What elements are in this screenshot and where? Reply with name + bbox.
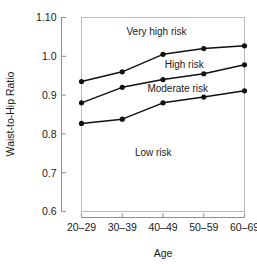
chart-container: 0.60.70.80.91.01.10 20–2930–3940–4950–59…: [0, 0, 257, 264]
y-axis-spine: [62, 18, 67, 212]
region-label-1: High risk: [165, 59, 205, 70]
y-axis-title: Waist-to-Hip Ratio: [4, 71, 16, 156]
data-point-1-2: [160, 77, 165, 82]
data-point-1-3: [201, 71, 206, 76]
region-label-0: Very high risk: [126, 26, 187, 37]
y-tick-label-3: 0.9: [42, 89, 57, 101]
series-line-2: [82, 91, 245, 124]
y-tick-label-4: 1.0: [42, 50, 57, 62]
data-point-2-3: [201, 94, 206, 99]
x-tick-label-1: 30–39: [108, 221, 137, 233]
data-point-2-1: [120, 117, 125, 122]
data-point-1-0: [79, 100, 84, 105]
x-axis-tick-labels: 20–2930–3940–4950–5960–69: [67, 221, 257, 233]
y-tick-label-5: 1.10: [36, 11, 57, 23]
data-point-1-1: [120, 85, 125, 90]
data-point-0-3: [201, 46, 206, 51]
data-point-2-2: [160, 100, 165, 105]
data-point-0-2: [160, 52, 165, 57]
y-tick-label-2: 0.8: [42, 128, 57, 140]
data-point-2-4: [242, 88, 247, 93]
y-axis-tick-labels: 0.60.70.80.91.01.10: [36, 11, 57, 217]
y-tick-label-0: 0.6: [42, 205, 57, 217]
x-axis-title: Age: [154, 247, 173, 259]
x-tick-label-2: 40–49: [148, 221, 177, 233]
series-line-0: [82, 46, 245, 82]
data-point-1-4: [242, 62, 247, 67]
x-tick-label-0: 20–29: [67, 221, 96, 233]
region-annotations-group: Very high riskHigh riskModerate riskLow …: [126, 26, 208, 158]
data-point-2-0: [79, 121, 84, 126]
data-point-0-4: [242, 43, 247, 48]
x-tick-label-3: 50–59: [189, 221, 218, 233]
y-tick-label-1: 0.7: [42, 167, 57, 179]
data-point-0-0: [79, 79, 84, 84]
x-axis-ticks: [122, 213, 204, 218]
waist-to-hip-ratio-risk-chart: 0.60.70.80.91.01.10 20–2930–3940–4950–59…: [0, 0, 257, 264]
y-axis-ticks: [62, 18, 67, 212]
data-point-0-1: [120, 69, 125, 74]
region-label-2: Moderate risk: [147, 83, 209, 94]
region-label-3: Low risk: [135, 147, 173, 158]
plot-area-frame: [82, 18, 245, 212]
x-tick-label-4: 60–69: [230, 221, 257, 233]
